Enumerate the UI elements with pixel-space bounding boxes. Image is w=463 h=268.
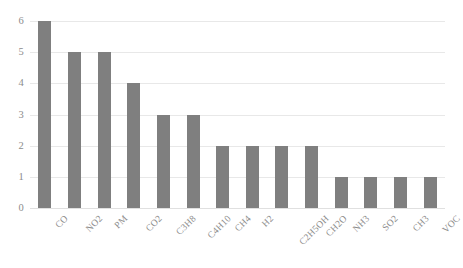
bar — [275, 146, 288, 208]
x-tick-label: C4H10 — [206, 214, 233, 241]
y-tick-label: 2 — [0, 140, 24, 151]
x-tick-label: CH3 — [411, 214, 431, 234]
bar — [38, 21, 51, 208]
x-tick-label: SO2 — [381, 214, 400, 233]
y-tick-label: 1 — [0, 172, 24, 183]
x-tick-label: H2 — [261, 214, 276, 229]
bar — [157, 115, 170, 209]
y-tick-label: 0 — [0, 203, 24, 214]
bar-series — [30, 21, 445, 208]
x-tick-label: NO2 — [85, 214, 105, 234]
bar — [127, 83, 140, 208]
y-axis: 0123456 — [0, 0, 24, 268]
bar — [394, 177, 407, 208]
x-tick-label: NH3 — [352, 214, 372, 234]
x-tick-label: CH4 — [233, 214, 253, 234]
bar — [424, 177, 437, 208]
y-tick-label: 4 — [0, 78, 24, 89]
bar — [68, 52, 81, 208]
x-tick-label: C3H8 — [175, 214, 198, 237]
x-tick-label: VOC — [441, 214, 462, 235]
bar — [335, 177, 348, 208]
bar — [364, 177, 377, 208]
x-axis: CONO2PMCO2C3H8C4H10CH4H2C2H5OHCH2ONH3SO2… — [30, 208, 445, 268]
x-tick-label: CO2 — [144, 214, 164, 234]
x-tick-label: PM — [113, 214, 130, 231]
plot-area — [30, 21, 445, 208]
bar — [98, 52, 111, 208]
bar — [246, 146, 259, 208]
bar — [305, 146, 318, 208]
x-tick-label: CO — [54, 214, 70, 230]
y-tick-label: 6 — [0, 16, 24, 27]
bar — [216, 146, 229, 208]
y-tick-label: 5 — [0, 47, 24, 58]
y-tick-label: 3 — [0, 109, 24, 120]
bar — [187, 115, 200, 209]
